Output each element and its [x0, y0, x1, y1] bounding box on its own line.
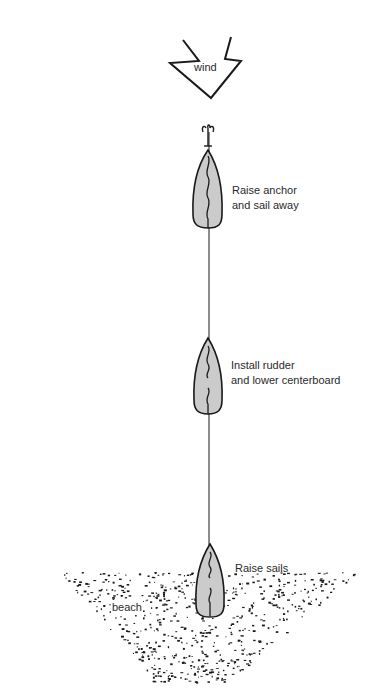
sailing-launch-diagram: wind Raise anchor and sail away Install …: [0, 0, 368, 694]
wind-label: wind: [194, 61, 217, 73]
beach-label: beach: [111, 600, 143, 615]
step-label-raise-sails: Raise sails: [235, 561, 288, 576]
boat-icon: [193, 150, 222, 228]
boat-icon: [196, 544, 224, 617]
step-label-raise-anchor: Raise anchor and sail away: [232, 183, 299, 213]
anchor-icon: [202, 125, 213, 146]
boat-icon: [194, 338, 222, 414]
step-label-install-rudder: Install rudder and lower centerboard: [231, 358, 340, 388]
